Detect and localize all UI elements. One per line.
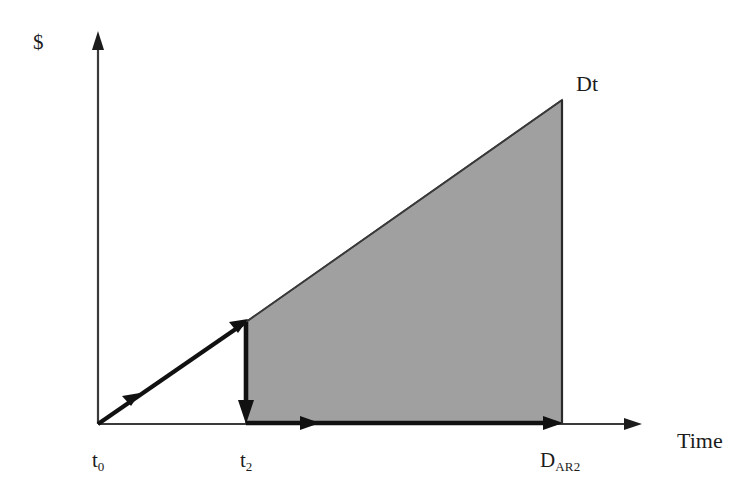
tick-label-t0-subscript: 0 [98,459,105,474]
debt-line-label-dt: Dt [576,73,598,95]
tick-label-dar2: DAR2 [540,450,580,471]
tick-label-dar2-subscript: AR2 [555,459,580,474]
tick-label-t2-subscript: 2 [246,459,253,474]
debt-accumulation-chart [0,0,754,497]
shaded-receivables-region [246,100,562,424]
y-axis-arrowhead-icon [92,31,104,50]
x-axis-label: Time [677,430,723,452]
y-axis-label: $ [33,32,44,53]
tick-label-t0-base: t [92,448,98,472]
tick-label-t0: t0 [92,450,105,471]
figure-canvas: $ Dt Time t0 t2 DAR2 [0,0,754,497]
tick-label-t2-base: t [240,448,246,472]
x-axis-arrowhead-icon [624,418,642,430]
tick-label-dar2-base: D [540,448,555,472]
tick-label-t2: t2 [240,450,253,471]
growth-arrow-shaft [98,324,243,424]
